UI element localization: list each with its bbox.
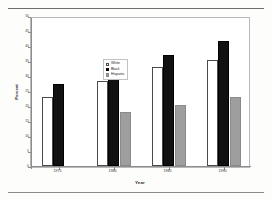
plot-frame: 05101520253035404550 WhiteBlackHispanic (30, 17, 250, 168)
bar-white-1975 (42, 97, 53, 166)
y-axis-tick-label: 35 (25, 60, 29, 63)
y-axis-tick-label: 40 (25, 45, 29, 48)
bar-white-1985 (152, 67, 163, 166)
bar-white-1980 (97, 81, 108, 167)
x-axis-line (31, 166, 251, 167)
bar-chart-figure: Percent 05101520253035404550 WhiteBlackH… (0, 12, 272, 190)
legend-item-label: White (111, 62, 120, 66)
legend-item-label: Black (111, 68, 120, 72)
x-axis-group-label-1975: 1975 (54, 170, 62, 174)
black-solid-bar-swatch (106, 68, 109, 71)
chart-legend: WhiteBlackHispanic (103, 59, 128, 80)
y-axis-tick-label: 5 (27, 150, 29, 153)
y-axis-title: Percent (14, 84, 19, 99)
plot-area: 05101520253035404550 WhiteBlackHispanic (31, 18, 249, 167)
page-rule-top (8, 8, 264, 9)
y-axis-tick-label: 10 (25, 135, 29, 138)
y-axis-tick-label: 50 (25, 15, 29, 18)
y-axis-tick-label: 15 (25, 120, 29, 123)
document-page: Percent 05101520253035404550 WhiteBlackH… (0, 0, 272, 200)
x-axis-group-label-1985: 1985 (164, 170, 172, 174)
legend-item-hispanic: Hispanic (106, 72, 124, 77)
bar-hispanic-1985 (175, 105, 186, 167)
page-rule-bottom (8, 192, 264, 193)
y-axis-tick-label: 30 (25, 75, 29, 78)
y-axis-tick-label: 20 (25, 105, 29, 108)
bar-hispanic-1990 (230, 97, 241, 166)
bar-black-1985 (163, 55, 174, 166)
y-axis-tick-label: 0 (27, 165, 29, 168)
bar-black-1990 (218, 41, 229, 166)
y-axis-line (31, 18, 32, 169)
y-axis-tick-label: 45 (25, 30, 29, 33)
x-axis-group-label-1990: 1990 (219, 170, 227, 174)
legend-item-label: Hispanic (111, 73, 124, 77)
bar-white-1990 (207, 60, 218, 166)
x-axis-title: Year (30, 180, 250, 185)
y-axis-tick-label: 25 (25, 90, 29, 93)
white-open-bar-swatch (106, 63, 109, 66)
x-axis-group-label-1980: 1980 (109, 170, 117, 174)
gray-solid-bar-swatch (106, 73, 109, 76)
bar-hispanic-1980 (120, 112, 131, 166)
bar-black-1975 (53, 84, 64, 167)
